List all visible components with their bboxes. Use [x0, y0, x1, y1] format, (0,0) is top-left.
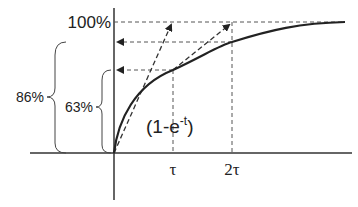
- label-86-percent: 86%: [16, 89, 44, 105]
- label-100-percent: 100%: [68, 13, 111, 32]
- time-constant-diagram: 100% 86% 63% τ 2τ (1-e-t): [0, 0, 358, 207]
- brace-86-percent: [47, 42, 66, 153]
- brace-63-percent: [96, 70, 111, 153]
- label-63-percent: 63%: [65, 99, 93, 115]
- curve-formula-label: (1-e-t): [146, 114, 193, 137]
- label-two-tau: 2τ: [224, 160, 240, 179]
- label-tau: τ: [170, 160, 177, 179]
